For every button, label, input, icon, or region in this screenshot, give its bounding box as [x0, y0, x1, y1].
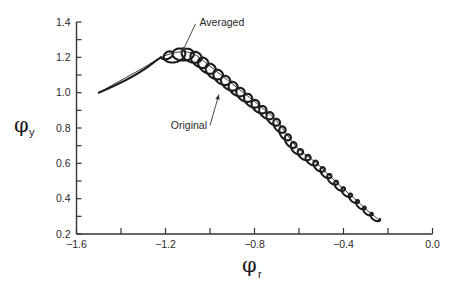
annotation-averaged: Averaged [182, 16, 244, 52]
x-ticks: −1.6−1.2−0.8−0.40.0 [66, 228, 440, 250]
y-axis-label-subscript: y [29, 126, 35, 138]
x-axis-label-subscript: r [258, 268, 262, 280]
x-tick-label: 0.0 [425, 238, 440, 250]
x-tick-label: −1.2 [155, 238, 176, 250]
x-axis-label-symbol: φ [242, 253, 257, 277]
y-tick-label: 1.4 [56, 16, 71, 28]
axes: −1.6−1.2−0.8−0.40.0 0.20.40.60.81.01.21.… [56, 16, 440, 250]
y-tick-label: 0.6 [56, 157, 71, 169]
y-ticks: 0.20.40.60.81.01.21.4 [56, 16, 82, 240]
x-tick-label: −0.8 [244, 238, 265, 250]
y-axis-label: φ y [14, 113, 35, 138]
series-averaged-line [99, 52, 379, 220]
phase-plot: −1.6−1.2−0.8−0.40.0 0.20.40.60.81.01.21.… [0, 0, 460, 292]
y-tick-label: 1.0 [56, 86, 71, 98]
x-tick-label: −0.4 [333, 238, 354, 250]
y-tick-label: 0.8 [56, 122, 71, 134]
annotation-arrowhead-icon [215, 94, 219, 99]
annotation-original: Original [171, 94, 220, 131]
y-tick-label: 0.4 [56, 192, 71, 204]
y-tick-label: 1.2 [56, 51, 71, 63]
y-tick-label: 0.2 [56, 228, 71, 240]
y-axis-label-symbol: φ [14, 113, 29, 137]
x-axis-label: φ r [242, 253, 262, 280]
annotation-label: Averaged [200, 16, 245, 28]
annotation-label: Original [171, 119, 207, 131]
series-original-line [99, 49, 380, 222]
